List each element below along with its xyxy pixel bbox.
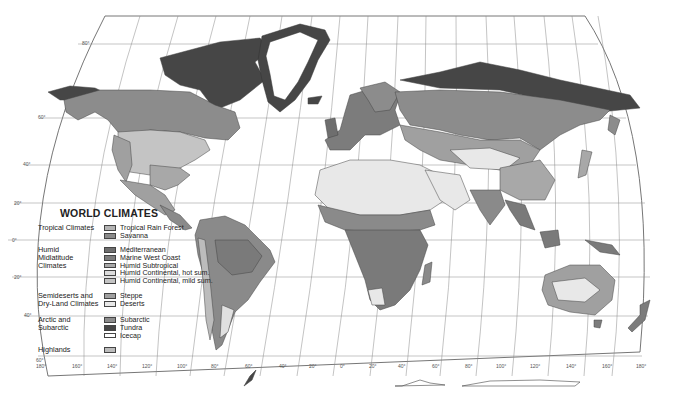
oceania — [540, 230, 650, 332]
legend-swatch — [104, 263, 116, 269]
lon-label: 80° — [211, 363, 219, 369]
lon-label: 180° — [636, 363, 646, 369]
legend-item-label: Tundra — [120, 324, 142, 332]
legend-item-label: Icecap — [120, 332, 141, 340]
legend-item-label: Deserts — [120, 300, 144, 308]
legend-item-steppe: Steppe — [104, 292, 144, 300]
legend-item-label: Marine West Coast — [120, 254, 180, 262]
legend-swatch — [104, 347, 116, 353]
legend-item-highlands — [104, 346, 120, 354]
madagascar — [422, 262, 432, 285]
legend-item-tundra: Tundra — [104, 324, 150, 332]
legend-item-tropical-rain-forest: Tropical Rain Forest — [104, 224, 184, 232]
legend-item-marine-west-coast: Marine West Coast — [104, 254, 213, 262]
legend-item-label: Mediterranean — [120, 246, 166, 254]
legend-item-label: Subarctic — [120, 316, 150, 324]
lon-label: 160° — [602, 363, 612, 369]
patagonia-steppe — [220, 305, 234, 338]
lat-label: 0° — [12, 237, 17, 243]
japan — [578, 150, 592, 178]
legend-group-label: Semideserts and Dry-Land Climates — [38, 292, 106, 308]
legend-item-humid-continental-hot: Humid Continental, hot sum. — [104, 269, 213, 277]
lon-label: 60° — [245, 363, 253, 369]
europe — [308, 82, 400, 150]
british-isles — [325, 118, 338, 138]
africa — [315, 160, 470, 310]
lon-label: 60° — [432, 363, 440, 369]
lon-label: 80° — [465, 363, 473, 369]
legend-swatch — [104, 333, 116, 339]
lon-label: 160° — [72, 363, 82, 369]
legend-item-savanna: Savanna — [104, 232, 184, 240]
legend-group-label: Humid Midlatitude Climates — [38, 246, 106, 269]
lon-label: 20° — [309, 363, 317, 369]
legend-item-humid-subtropical: Humid Subtropical — [104, 262, 213, 270]
world-climates-map — [0, 0, 677, 399]
legend-item-mediterranean: Mediterranean — [104, 246, 213, 254]
sahara-desert — [315, 160, 445, 215]
central-africa — [345, 230, 428, 310]
legend-group-label: Arctic and Subarctic — [38, 316, 106, 332]
legend-item-label: Humid Continental, mild sum. — [120, 277, 213, 285]
iceland — [308, 96, 322, 104]
lon-label: 20° — [369, 363, 377, 369]
lon-label: 140° — [107, 363, 117, 369]
lat-label: 40° — [24, 312, 32, 318]
legend-group-label: Highlands — [38, 346, 106, 354]
legend-swatch — [104, 255, 116, 261]
legend-item-label: Tropical Rain Forest — [120, 224, 184, 232]
lon-label: 40° — [398, 363, 406, 369]
lat-label: 20° — [14, 200, 22, 206]
legend-swatch — [104, 270, 116, 276]
lon-label: 0° — [340, 363, 345, 369]
tasmania — [594, 320, 602, 328]
legend-swatch — [104, 325, 116, 331]
lon-label: 40° — [279, 363, 287, 369]
legend-item-humid-continental-mild: Humid Continental, mild sum. — [104, 277, 213, 285]
kalahari — [368, 288, 385, 305]
legend-item-label: Humid Subtropical — [120, 262, 178, 270]
legend-swatch — [104, 293, 116, 299]
legend-swatch — [104, 301, 116, 307]
legend-swatch — [104, 278, 116, 284]
legend-swatch — [104, 225, 116, 231]
new-guinea — [585, 240, 620, 255]
legend-item-label: Savanna — [120, 232, 148, 240]
legend-item-label: Humid Continental, hot sum. — [120, 269, 210, 277]
legend-item-subarctic: Subarctic — [104, 316, 150, 324]
lon-label: 140° — [566, 363, 576, 369]
lat-label: 20° — [14, 274, 22, 280]
usa-southeast — [150, 165, 190, 190]
lat-label: 60° — [38, 114, 46, 120]
southeast-asia — [505, 200, 535, 230]
lat-label: 80° — [82, 40, 90, 46]
legend-swatch — [104, 317, 116, 323]
antarctica — [244, 370, 580, 386]
lon-label: 100° — [496, 363, 506, 369]
india — [470, 190, 505, 225]
legend-item-icecap: Icecap — [104, 332, 150, 340]
legend-item-label: Steppe — [120, 292, 142, 300]
lon-label: 120° — [142, 363, 152, 369]
lat-label: 40° — [23, 161, 31, 167]
legend-swatch — [104, 247, 116, 253]
borneo — [540, 230, 560, 248]
legend-group-label: Tropical Climates — [38, 224, 106, 232]
lon-label: 100° — [177, 363, 187, 369]
usa-west-steppe — [112, 135, 132, 182]
lon-label: 120° — [530, 363, 540, 369]
legend-item-deserts: Deserts — [104, 300, 144, 308]
legend-swatch — [104, 233, 116, 239]
lon-label: 180° — [36, 363, 46, 369]
legend-title: WORLD CLIMATES — [60, 207, 158, 219]
